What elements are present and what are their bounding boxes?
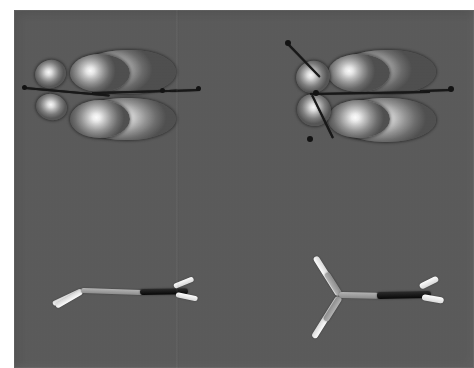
- orbital-lobe-lower-large-inner: [328, 100, 390, 138]
- bond-h-lower-right: [421, 294, 444, 304]
- orbital-lobe-upper-large-inner: [70, 54, 130, 92]
- orbital-lobe-upper-small: [31, 56, 69, 92]
- atom-node-bottom: [307, 136, 313, 142]
- orbital-lobe-upper-large-inner: [328, 54, 390, 92]
- atom-node-right: [448, 86, 454, 92]
- orbital-plot-right: [280, 28, 455, 168]
- bond-h-upper-right: [173, 276, 194, 289]
- figure-canvas: [14, 10, 474, 368]
- atom-node-right: [196, 86, 201, 91]
- bond-center-horizontal: [310, 91, 430, 95]
- bond-h-upper-right: [419, 276, 440, 290]
- orbital-lobe-lower-large-inner: [70, 100, 130, 138]
- atom-node-top: [285, 40, 291, 46]
- bond-carbon-right: [339, 292, 379, 299]
- figure-root: [0, 0, 474, 368]
- atom-node-center: [160, 88, 165, 93]
- atom-node-center: [313, 90, 319, 96]
- molecule-model-right: [304, 232, 454, 342]
- atom-node-left: [22, 85, 27, 90]
- orbital-plot-left: [30, 32, 200, 162]
- orbital-lobe-lower-small: [33, 91, 69, 124]
- molecule-model-left: [52, 258, 202, 318]
- bond-h-lower-right: [175, 292, 198, 301]
- bond-carbon-chain: [81, 288, 143, 295]
